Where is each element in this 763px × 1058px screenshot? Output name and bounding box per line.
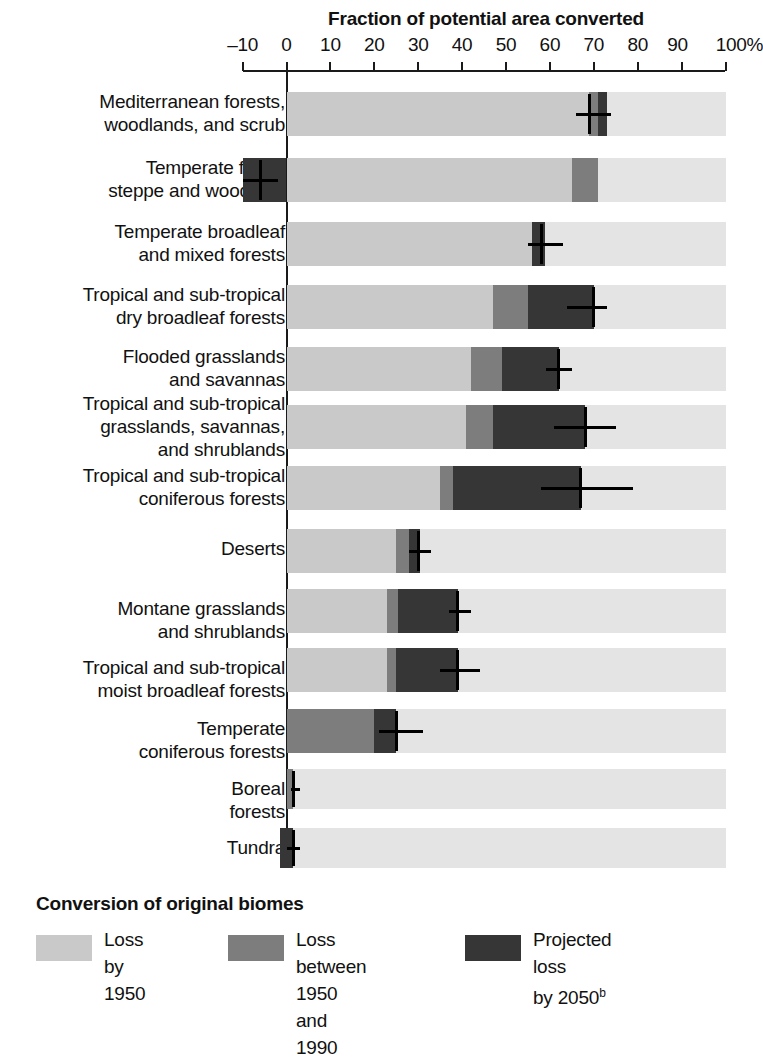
error-bar-whisker xyxy=(379,730,423,733)
segment-loss-by-1950 xyxy=(287,92,590,136)
legend-swatch xyxy=(228,935,284,961)
plot-area: Mediterranean forests, woodlands, and sc… xyxy=(0,0,748,860)
segment-loss-by-1950 xyxy=(287,589,388,633)
category-label: Flooded grasslands and savannas xyxy=(123,345,285,391)
segment-loss-by-1950 xyxy=(287,405,467,449)
error-bar-whisker xyxy=(541,487,633,490)
error-bar-whisker xyxy=(528,243,563,246)
segment-loss-1950-1990 xyxy=(440,466,453,510)
error-bar-whisker xyxy=(287,847,300,850)
segment-loss-by-1950 xyxy=(287,466,441,510)
error-bar-whisker xyxy=(554,426,615,429)
segment-loss-by-1950 xyxy=(287,648,388,692)
segment-loss-by-1950 xyxy=(287,529,397,573)
segment-loss-by-1950 xyxy=(287,347,471,391)
error-bar-whisker xyxy=(243,179,278,182)
segment-loss-by-1950 xyxy=(287,158,572,202)
error-bar-whisker xyxy=(440,669,480,672)
segment-loss-1950-1990 xyxy=(287,709,375,753)
error-bar-whisker xyxy=(449,610,471,613)
legend-swatch xyxy=(36,935,92,961)
segment-loss-1950-1990 xyxy=(396,529,409,573)
error-bar-whisker xyxy=(546,368,572,371)
segment-loss-1950-1990 xyxy=(466,405,492,449)
category-label: Temperate coniferous forests xyxy=(139,717,285,763)
bar-track xyxy=(287,769,726,809)
category-label: Tropical and sub-tropical coniferous for… xyxy=(83,464,285,510)
error-bar-whisker xyxy=(576,113,611,116)
error-bar-whisker xyxy=(409,550,431,553)
category-label: Mediterranean forests, woodlands, and sc… xyxy=(99,90,285,136)
legend-label: Loss between 1950 and 1990 xyxy=(296,926,366,1058)
legend-swatch xyxy=(465,935,521,961)
legend-title: Conversion of original biomes xyxy=(36,893,304,915)
segment-loss-by-1950 xyxy=(287,285,493,329)
category-label: Temperate broadleaf and mixed forests xyxy=(115,220,285,266)
legend: Conversion of original biomes Loss by 19… xyxy=(0,893,748,981)
error-bar-whisker xyxy=(567,306,607,309)
legend-label: Projected lossby 2050b xyxy=(533,926,611,1011)
segment-loss-by-1950 xyxy=(287,222,533,266)
segment-loss-1950-1990 xyxy=(572,158,598,202)
legend-label: Loss by 1950 xyxy=(104,926,145,1007)
segment-loss-1950-1990 xyxy=(471,347,502,391)
category-label: Montane grasslands and shrublands xyxy=(117,597,285,643)
error-bar-whisker xyxy=(291,788,300,791)
category-label: Tundra xyxy=(227,836,285,859)
segment-loss-1950-1990 xyxy=(387,648,396,692)
legend-footnote-marker: b xyxy=(599,986,605,1000)
category-label: Tropical and sub-tropical moist broadlea… xyxy=(83,656,285,702)
segment-loss-1950-1990 xyxy=(387,589,398,633)
category-label: Tropical and sub-tropical dry broadleaf … xyxy=(83,283,285,329)
category-label: Boreal forests xyxy=(229,777,285,823)
segment-loss-1950-1990 xyxy=(493,285,528,329)
bar-track xyxy=(287,828,726,868)
category-label: Tropical and sub-tropical grasslands, sa… xyxy=(83,392,285,461)
category-label: Deserts xyxy=(221,537,285,560)
